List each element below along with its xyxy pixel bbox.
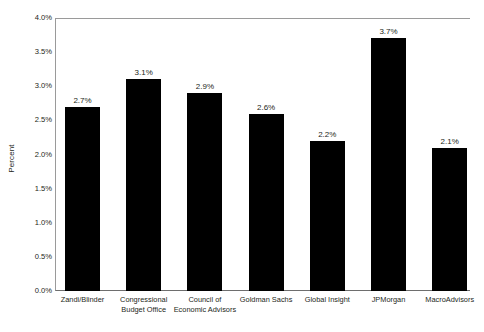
x-axis-category-label: JPMorgan xyxy=(356,295,422,305)
x-axis-category-label: Goldman Sachs xyxy=(233,295,299,305)
y-axis-tick-label: 3.0% xyxy=(18,82,52,90)
x-axis-category-label: MacroAdvisors xyxy=(417,295,483,305)
y-axis-tick-labels: 0.0%0.5%1.0%1.5%2.0%2.5%3.0%3.5%4.0% xyxy=(18,0,52,332)
y-axis-tick-label: 3.5% xyxy=(18,48,52,56)
y-axis-tick-label: 2.0% xyxy=(18,151,52,159)
x-axis-category-label: Global Insight xyxy=(294,295,360,305)
x-axis-category-label: Zandi/Blinder xyxy=(50,295,116,305)
y-axis-tick-label: 1.0% xyxy=(18,219,52,227)
y-axis-tick-label: 0.5% xyxy=(18,253,52,261)
plot-area xyxy=(55,18,470,291)
bar-chart: Percent 0.0%0.5%1.0%1.5%2.0%2.5%3.0%3.5%… xyxy=(0,0,484,332)
y-axis-tick-label: 4.0% xyxy=(18,14,52,22)
x-axis-category-labels: Zandi/BlinderCongressional Budget Office… xyxy=(0,295,484,332)
y-axis-tick-label: 2.5% xyxy=(18,116,52,124)
x-axis-category-label: Congressional Budget Office xyxy=(111,295,177,314)
y-axis-tick-label: 0.0% xyxy=(18,287,52,295)
y-axis-title-text: Percent xyxy=(7,144,16,172)
x-axis-category-label: Council of Economic Advisors xyxy=(172,295,238,314)
y-axis-tick-label: 1.5% xyxy=(18,185,52,193)
